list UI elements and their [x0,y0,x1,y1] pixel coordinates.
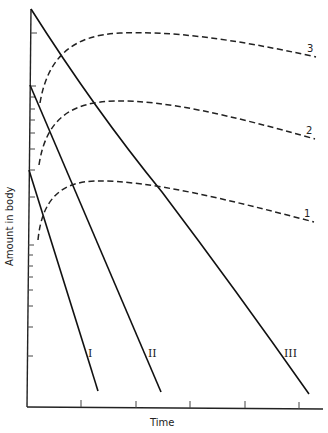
curve-2 [39,101,315,165]
curve-3 [40,33,316,103]
x-axis-label: Time [149,417,174,428]
label-3: 3 [307,43,313,54]
chart: I II III 3 2 1 Time Amount in body [0,0,328,433]
x-axis [27,407,323,409]
label-2: 2 [306,125,312,136]
label-III: III [284,347,297,360]
label-I: I [88,347,92,360]
label-II: II [148,347,157,360]
label-1: 1 [304,208,310,219]
y-axis [27,9,31,407]
line-III [31,9,309,394]
y-axis-label: Amount in body [4,186,15,266]
